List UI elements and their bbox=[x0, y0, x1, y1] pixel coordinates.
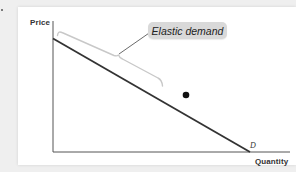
figure: Price Quantity D Elastic demand bbox=[0, 0, 296, 172]
elastic-demand-callout: Elastic demand bbox=[148, 22, 227, 39]
midpoint-dot bbox=[183, 92, 190, 99]
y-axis-label: Price bbox=[30, 18, 50, 27]
demand-curve-label: D bbox=[250, 141, 256, 150]
elastic-bracket bbox=[58, 32, 163, 86]
callout-text: Elastic demand bbox=[152, 25, 224, 37]
demand-curve bbox=[53, 39, 250, 153]
x-axis-label: Quantity bbox=[255, 157, 288, 166]
